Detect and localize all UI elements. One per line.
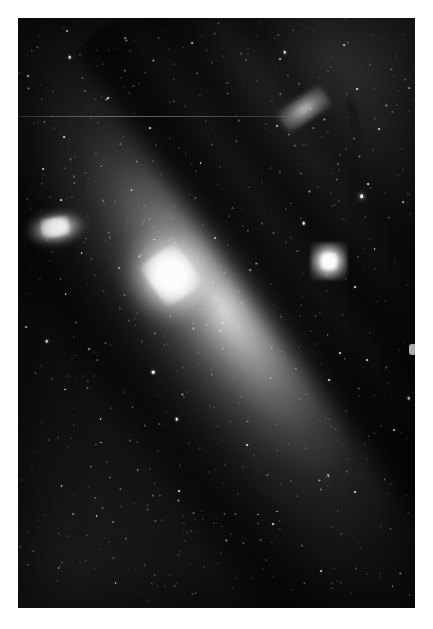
star (56, 580, 57, 581)
sky-field (18, 18, 415, 608)
star (58, 567, 60, 569)
star (27, 532, 28, 533)
photographic-plate (0, 0, 433, 629)
star (20, 547, 21, 548)
m32-nucleus (321, 253, 337, 270)
star (404, 35, 405, 36)
star (61, 562, 62, 563)
star (27, 564, 28, 565)
star (20, 546, 21, 547)
scan-line-artifact (18, 116, 312, 117)
m110-nucleus (39, 215, 69, 238)
star (33, 550, 34, 551)
star (60, 565, 61, 566)
edge-emulsion-blob (409, 344, 415, 355)
